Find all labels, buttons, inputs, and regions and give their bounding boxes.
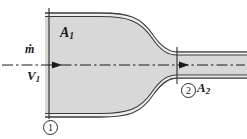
- exit-area-label: A2: [197, 81, 210, 94]
- inlet-velocity-subscript: 1: [36, 74, 40, 84]
- mass-flow-rate-label: ṁ: [25, 43, 34, 55]
- exit-area-subscript: 2: [206, 86, 210, 96]
- inlet-area-symbol: A: [60, 25, 69, 40]
- inlet-area-label: A1: [60, 26, 74, 40]
- inlet-area-subscript: 1: [69, 31, 74, 41]
- duct-flow-figure: A1 A2 ṁ V1 1 2: [0, 0, 247, 139]
- section-marker-2: 2: [181, 83, 196, 98]
- inlet-velocity-symbol: V: [27, 68, 36, 83]
- inlet-velocity-label: V1: [27, 69, 40, 82]
- exit-area-symbol: A: [197, 80, 206, 95]
- section-marker-1: 1: [43, 120, 58, 135]
